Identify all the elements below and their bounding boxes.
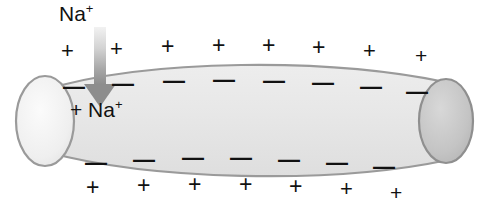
top-inner-minus-charge: — bbox=[63, 76, 85, 98]
top-outer-plus-charge: + bbox=[110, 38, 123, 60]
top-outer-plus-charge: + bbox=[363, 40, 376, 62]
extracellular-sodium-text: Na bbox=[59, 2, 86, 25]
bottom-inner-minus-charge: — bbox=[373, 156, 395, 178]
intracellular-sodium-label: + Na+ bbox=[70, 99, 123, 120]
top-inner-minus-charge: — bbox=[163, 70, 185, 92]
bottom-inner-minus-charge: — bbox=[85, 152, 107, 174]
bottom-inner-minus-charge: — bbox=[182, 147, 204, 169]
top-outer-plus-charge: + bbox=[212, 34, 225, 57]
bottom-inner-minus-charge: — bbox=[230, 147, 252, 169]
extracellular-sodium-label: Na+ bbox=[59, 3, 93, 24]
top-outer-plus-charge: + bbox=[312, 36, 325, 59]
top-inner-minus-charge: — bbox=[263, 70, 285, 92]
bottom-inner-minus-charge: — bbox=[278, 149, 300, 171]
bottom-inner-minus-charge: — bbox=[326, 152, 348, 174]
bottom-outer-plus-charge: + bbox=[137, 174, 150, 197]
top-outer-plus-charge: + bbox=[415, 45, 427, 66]
bottom-outer-plus-charge: + bbox=[390, 182, 402, 200]
axon-membrane-diagram: Na+ + Na+ ++++++++———————————————+++++++ bbox=[0, 0, 489, 200]
top-inner-minus-charge: — bbox=[112, 73, 134, 95]
top-outer-plus-charge: + bbox=[262, 34, 275, 57]
extracellular-sodium-charge: + bbox=[86, 1, 94, 16]
top-inner-minus-charge: — bbox=[312, 72, 334, 94]
top-inner-minus-charge: — bbox=[213, 69, 235, 91]
intracellular-sodium-charge: + bbox=[115, 97, 123, 112]
intracellular-sodium-text: Na bbox=[88, 98, 115, 121]
bottom-outer-plus-charge: + bbox=[188, 173, 201, 196]
bottom-outer-plus-charge: + bbox=[239, 173, 252, 196]
bottom-outer-plus-charge: + bbox=[289, 175, 302, 198]
intracellular-plus-sign: + bbox=[70, 98, 82, 121]
top-inner-minus-charge: — bbox=[360, 76, 382, 98]
top-outer-plus-charge: + bbox=[61, 40, 74, 62]
top-inner-minus-charge: — bbox=[406, 81, 428, 103]
bottom-outer-plus-charge: + bbox=[340, 178, 353, 200]
top-outer-plus-charge: + bbox=[161, 35, 174, 58]
bottom-outer-plus-charge: + bbox=[86, 176, 99, 199]
bottom-inner-minus-charge: — bbox=[133, 149, 155, 171]
